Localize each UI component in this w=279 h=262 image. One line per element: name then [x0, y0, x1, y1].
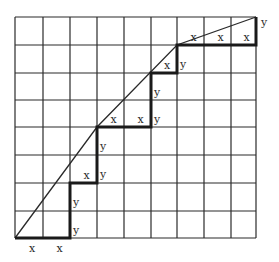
- y-step-label: y: [99, 140, 107, 153]
- x-step-label: x: [164, 59, 171, 72]
- y-step-label: y: [72, 196, 80, 209]
- y-step-label: y: [260, 16, 268, 29]
- x-step-label: x: [29, 242, 36, 255]
- x-step-label: x: [110, 113, 117, 126]
- staircase-grid-diagram: xxyyxyyxxyyxyxxxy: [0, 0, 279, 262]
- y-step-label: y: [72, 224, 80, 237]
- x-step-label: x: [217, 31, 224, 44]
- x-step-label: x: [83, 169, 90, 182]
- y-step-label: y: [99, 168, 107, 181]
- step-labels: xxyyxyyxxyyxyxxxy: [29, 16, 268, 255]
- x-step-label: x: [137, 113, 144, 126]
- x-step-label: x: [243, 31, 250, 44]
- x-step-label: x: [190, 31, 197, 44]
- y-step-label: y: [179, 58, 187, 71]
- y-step-label: y: [153, 86, 161, 99]
- y-step-label: y: [153, 113, 161, 126]
- x-step-label: x: [56, 242, 63, 255]
